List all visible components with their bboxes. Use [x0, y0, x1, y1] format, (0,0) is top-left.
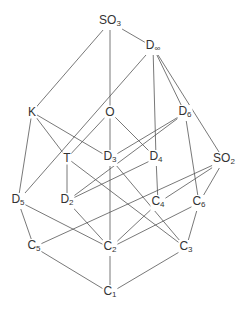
node-label: C — [103, 239, 112, 253]
edge-t-c3 — [67, 158, 186, 248]
edge-c3-c1 — [110, 248, 186, 293]
subgroup-lattice-diagram: SO3D∞KOD6TD3D4SO2D5D2C4C6C5C2C3C1 — [0, 0, 243, 313]
node-label: D — [146, 38, 155, 52]
node-label: SO — [99, 13, 116, 27]
node-d6: D6 — [177, 105, 192, 121]
edge-so3-k — [32, 22, 110, 112]
node-label: SO — [213, 151, 230, 165]
node-subscript: 3 — [112, 155, 116, 164]
node-d4: D4 — [148, 150, 163, 166]
node-label: D — [178, 104, 187, 118]
node-d3: D3 — [102, 150, 117, 166]
node-d5: D5 — [10, 193, 25, 209]
node-subscript: 5 — [36, 244, 40, 253]
node-so2: SO2 — [212, 152, 236, 168]
node-subscript: 6 — [187, 110, 191, 119]
node-label: C — [27, 238, 36, 252]
node-so3: SO3 — [98, 14, 122, 30]
node-subscript: 3 — [116, 19, 120, 28]
edge-d3-c3 — [110, 158, 186, 248]
node-subscript: 4 — [160, 200, 164, 209]
node-c2: C2 — [102, 240, 117, 256]
node-label: D — [103, 149, 112, 163]
edge-dinf-d4 — [153, 47, 156, 158]
node-subscript: 5 — [20, 198, 24, 207]
node-c4: C4 — [150, 195, 165, 211]
node-c3: C3 — [178, 240, 193, 256]
node-subscript: 3 — [188, 245, 192, 254]
node-subscript: 2 — [69, 198, 73, 207]
node-label: D — [11, 192, 20, 206]
edge-d6-c6 — [185, 113, 199, 203]
node-subscript: 2 — [112, 245, 116, 254]
node-dinf: D∞ — [145, 39, 161, 55]
edge-d6-d2 — [67, 113, 185, 201]
node-label: K — [28, 105, 36, 119]
node-label: O — [105, 105, 114, 119]
node-t: T — [62, 152, 71, 165]
node-d2: D2 — [59, 193, 74, 209]
lattice-edges — [0, 0, 243, 313]
node-subscript: 2 — [230, 157, 234, 166]
node-c6: C6 — [191, 195, 206, 211]
node-c1: C1 — [102, 285, 117, 301]
edge-dinf-d5 — [18, 47, 153, 201]
node-label: T — [63, 151, 70, 165]
node-label: C — [192, 194, 201, 208]
edge-c5-c1 — [34, 247, 110, 293]
node-label: D — [149, 149, 158, 163]
node-label: D — [60, 192, 69, 206]
node-subscript: 4 — [158, 155, 162, 164]
node-label: C — [103, 284, 112, 298]
node-subscript: ∞ — [154, 44, 160, 53]
node-subscript: 1 — [112, 290, 116, 299]
node-c5: C5 — [26, 239, 41, 255]
node-label: C — [151, 194, 160, 208]
edge-dinf-so2 — [153, 47, 224, 160]
node-label: C — [179, 239, 188, 253]
node-subscript: 6 — [201, 200, 205, 209]
node-k: K — [27, 106, 37, 119]
node-o: O — [104, 106, 115, 119]
